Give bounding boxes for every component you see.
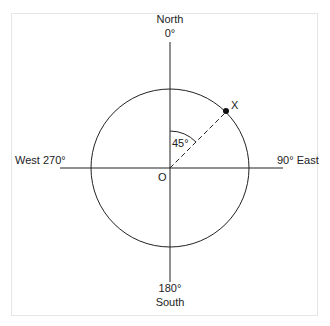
east-label: 90° East <box>277 154 319 166</box>
west-label: West 270° <box>15 154 66 166</box>
origin-label: O <box>158 171 167 183</box>
point-x-marker <box>223 108 229 114</box>
south-label: South <box>156 296 185 308</box>
angle-label: 45° <box>172 137 189 149</box>
north-degree-label: 0° <box>165 27 176 39</box>
north-label: North <box>157 13 184 25</box>
compass-diagram: North 0° 180° South 90° East West 270° O… <box>0 0 330 326</box>
point-x-label: X <box>231 99 239 111</box>
south-degree-label: 180° <box>159 282 182 294</box>
